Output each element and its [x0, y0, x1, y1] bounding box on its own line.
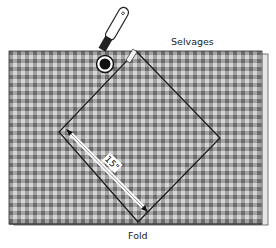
selvages-label: Selvages: [171, 36, 214, 47]
diagram-illustration: 15": [0, 0, 276, 248]
bias-cut-diagram: 15" Selvages Fold: [0, 0, 276, 248]
fold-label: Fold: [128, 230, 148, 241]
